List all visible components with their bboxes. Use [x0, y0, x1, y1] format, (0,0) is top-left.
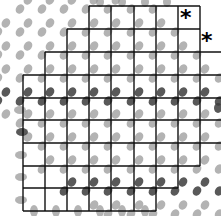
- halo-dot: [15, 151, 27, 159]
- halo-dot: [15, 173, 27, 181]
- halo-dot: [15, 196, 27, 204]
- halo-dot: [16, 128, 28, 136]
- lattice-grid-diagram: [0, 0, 221, 216]
- asterisk-marker-2: *: [201, 30, 213, 52]
- halo-dot: [14, 106, 26, 114]
- asterisk-marker-1: *: [180, 7, 192, 29]
